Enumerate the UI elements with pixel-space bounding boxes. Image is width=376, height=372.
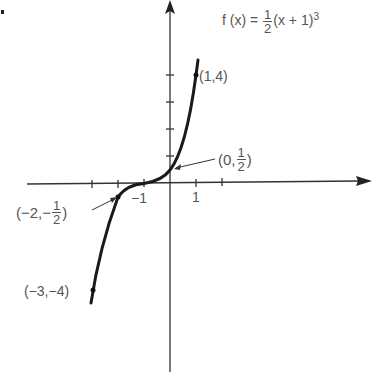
point-1-4	[194, 73, 199, 78]
x-tick-label-1: 1	[192, 190, 200, 204]
label-point-1-4: (1,4)	[199, 69, 228, 83]
fraction-denominator: 2	[263, 22, 272, 35]
label-open: (0,	[218, 151, 236, 168]
function-suffix: (x + 1)	[273, 12, 313, 28]
x-tick-label-neg1: −1	[131, 191, 147, 205]
leader-line-0-half	[176, 159, 215, 168]
label-fraction: 12	[237, 146, 246, 173]
fraction-denominator: 2	[52, 213, 61, 226]
stray-dot	[1, 10, 4, 14]
label-point-neg3-neg4: (−3,−4)	[24, 284, 69, 298]
x-axis-arrow-icon	[356, 176, 372, 186]
point-neg2-neghalf	[116, 195, 121, 200]
label-close: )	[62, 204, 67, 221]
fraction-numerator: 1	[237, 146, 246, 160]
function-prefix: f (x) =	[222, 12, 262, 28]
fraction-numerator: 1	[52, 199, 61, 213]
label-point-0-half: (0,12)	[218, 146, 252, 173]
fraction-denominator: 2	[237, 160, 246, 173]
function-exponent: 3	[313, 11, 319, 22]
leader-line-neg2	[92, 199, 114, 210]
label-fraction: 12	[52, 199, 61, 226]
fraction-numerator: 1	[263, 8, 272, 22]
function-fraction: 12	[263, 8, 272, 35]
x-axis	[27, 181, 360, 184]
label-point-neg2-neghalf: (−2,−12)	[16, 199, 67, 226]
function-label: f (x) = 12(x + 1)3	[222, 8, 319, 35]
graph-canvas	[0, 0, 376, 372]
point-neg3-neg4	[91, 288, 96, 293]
label-close: )	[247, 151, 252, 168]
label-open: (−2,−	[16, 204, 51, 221]
